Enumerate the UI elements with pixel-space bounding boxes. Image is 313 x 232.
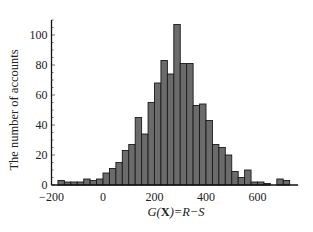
histogram-bar (283, 181, 289, 186)
x-tick-label: 200 (146, 190, 164, 204)
x-title-rest: )=R−S (169, 205, 206, 219)
histogram-bar (135, 118, 141, 186)
histogram-bar (103, 173, 109, 185)
x-tick-label: −200 (39, 190, 64, 204)
histogram-bar (58, 181, 64, 186)
histogram-bar (90, 181, 96, 186)
x-tick-label: 0 (100, 190, 106, 204)
histogram-bar (174, 25, 180, 186)
histogram-bars (58, 25, 290, 186)
histogram-bar (238, 178, 244, 186)
histogram-bar (225, 155, 231, 185)
histogram-bar (277, 179, 283, 185)
y-tick-label: 60 (36, 88, 48, 102)
y-axis: 020406080100 (30, 20, 56, 192)
x-tick-label: 600 (249, 190, 267, 204)
histogram-bar (161, 61, 167, 186)
x-axis: −2000200400600 (39, 185, 298, 204)
histogram-bar (122, 151, 128, 186)
histogram-bar (200, 104, 206, 185)
x-tick-label: 400 (197, 190, 215, 204)
histogram-bar (109, 169, 115, 186)
histogram-bar (206, 121, 212, 186)
x-axis-title: G(X)=R−S (147, 205, 205, 219)
histogram-bar (167, 74, 173, 185)
histogram-bar (129, 145, 135, 186)
histogram-bar (148, 103, 154, 186)
histogram-bar (193, 106, 199, 186)
histogram-bar (219, 148, 225, 186)
histogram-bar (245, 170, 251, 185)
histogram-bar (155, 83, 161, 185)
histogram-bar (142, 134, 148, 185)
histogram-bar (116, 163, 122, 186)
y-tick-label: 80 (36, 58, 48, 72)
x-title-g: G( (147, 205, 161, 219)
y-tick-label: 20 (36, 148, 48, 162)
y-tick-label: 100 (30, 28, 48, 42)
histogram-bar (232, 172, 238, 186)
histogram-bar (97, 179, 103, 185)
histogram-chart: 020406080100 −2000200400600 The number o… (0, 0, 313, 232)
y-tick-label: 40 (36, 118, 48, 132)
histogram-bar (180, 64, 186, 186)
histogram-bar (212, 145, 218, 186)
x-title-x: X (161, 205, 170, 219)
histogram-bar (84, 179, 90, 185)
histogram-bar (187, 64, 193, 186)
y-axis-title: The number of accounts (7, 49, 21, 170)
